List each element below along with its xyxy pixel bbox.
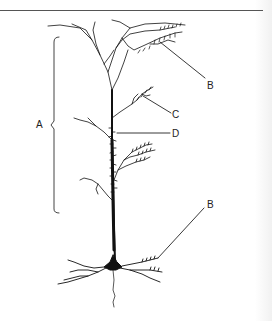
leader-b-top bbox=[160, 42, 205, 78]
label-c: C bbox=[172, 110, 179, 120]
leader-c bbox=[143, 96, 171, 113]
right-oblique-branches bbox=[114, 142, 155, 180]
oblique-branch bbox=[112, 87, 153, 118]
label-b-top: B bbox=[207, 81, 214, 91]
leader-b-bottom bbox=[158, 208, 204, 258]
leader-lines bbox=[117, 42, 205, 258]
label-a: A bbox=[36, 120, 43, 130]
label-d: D bbox=[172, 129, 179, 139]
axon bbox=[113, 270, 115, 307]
label-b-bottom: B bbox=[207, 200, 214, 210]
soma bbox=[104, 255, 122, 270]
apical-tuft bbox=[48, 20, 185, 90]
pyramidal-neuron-drawing bbox=[0, 0, 272, 321]
left-oblique-branches bbox=[74, 118, 113, 201]
bracket-a bbox=[51, 37, 59, 213]
figure-page: A B C D B bbox=[0, 0, 272, 321]
